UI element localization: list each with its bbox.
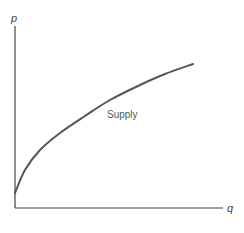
y-axis-label: p [10,12,17,24]
supply-curve [15,64,193,193]
supply-chart: p q Supply [0,0,244,233]
x-axis-label: q [227,202,234,214]
supply-label: Supply [107,109,138,120]
